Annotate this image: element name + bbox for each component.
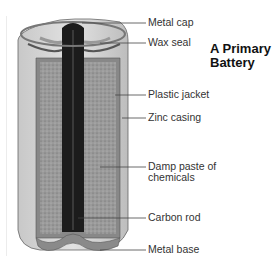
label-damp-paste-line-2: chemicals: [148, 172, 216, 183]
label-wax-seal: Wax seal: [148, 37, 191, 48]
label-zinc-casing: Zinc casing: [148, 112, 201, 123]
label-carbon-rod: Carbon rod: [148, 212, 201, 223]
title-line-1: A Primary: [210, 42, 271, 56]
label-plastic-jacket: Plastic jacket: [148, 89, 209, 100]
battery-cross-section-illustration: [0, 0, 278, 266]
title-line-2: Battery: [210, 56, 271, 70]
diagram-title: A Primary Battery: [210, 42, 271, 70]
label-metal-base: Metal base: [148, 244, 199, 255]
label-damp-paste: Damp paste of chemicals: [148, 161, 216, 183]
label-metal-cap: Metal cap: [148, 17, 194, 28]
